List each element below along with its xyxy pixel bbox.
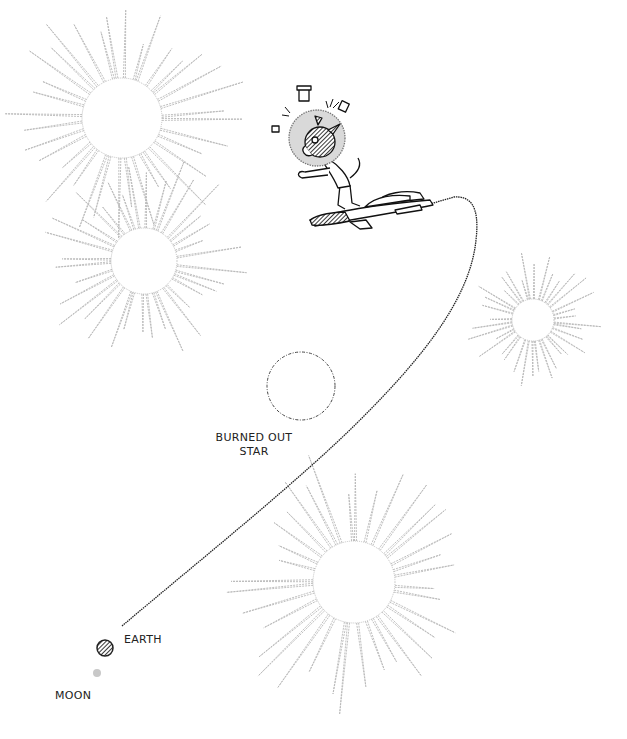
star-top-left-icon [5, 10, 243, 239]
moon-label: MOON [55, 689, 91, 703]
star-middle-left-icon [46, 161, 247, 350]
burned-out-star-label-line2: STAR [204, 445, 304, 459]
earth-label: EARTH [124, 633, 162, 647]
space-dog-on-rocket-icon [272, 86, 433, 229]
burned-out-star-label-line1: BURNED OUT [204, 431, 304, 445]
space-illustration [0, 0, 627, 739]
burned-out-star-label: BURNED OUT STAR [204, 431, 304, 459]
earth-icon [97, 640, 113, 656]
burned-out-star-icon [267, 352, 335, 420]
star-bottom-icon [226, 455, 455, 713]
star-right-icon [468, 253, 600, 385]
moon-icon [93, 669, 101, 677]
